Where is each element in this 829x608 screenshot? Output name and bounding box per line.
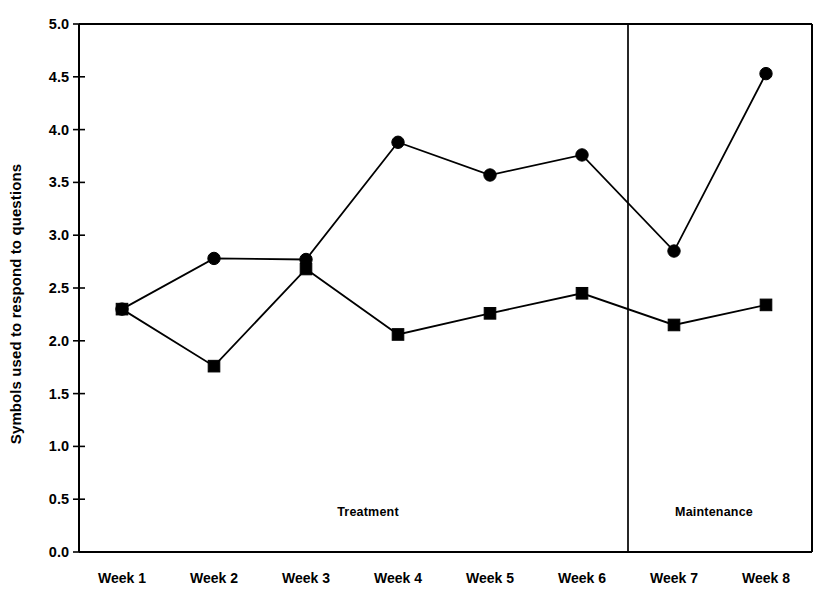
chart-figure: Symbols used to respond to questions 0.0…: [0, 0, 829, 608]
y-axis-tick-label: 3.0: [27, 228, 69, 243]
y-axis-tick-label: 1.5: [27, 386, 69, 401]
x-axis-tick-label: Week 6: [558, 570, 606, 586]
y-axis-label: Symbols used to respond to questions: [0, 0, 30, 608]
y-axis-tick-label: 4.0: [27, 122, 69, 137]
x-axis-tick-label: Week 5: [466, 570, 514, 586]
x-axis-tick-label: Week 3: [282, 570, 330, 586]
x-axis-tick-label: Week 2: [190, 570, 238, 586]
y-axis-tick-label: 1.0: [27, 439, 69, 454]
x-axis-tick-label: Week 7: [650, 570, 698, 586]
y-axis-tick-label: 2.5: [27, 281, 69, 296]
y-axis-tick-label: 0.5: [27, 492, 69, 507]
x-axis-tick-label: Week 1: [98, 570, 146, 586]
y-axis-tick-label: 0.0: [27, 545, 69, 560]
y-axis-tick-label: 4.5: [27, 70, 69, 85]
phase-label-treatment: Treatment: [337, 505, 399, 519]
x-axis-tick-label: Week 8: [742, 570, 790, 586]
x-axis-tick-label: Week 4: [374, 570, 422, 586]
y-axis-tick-label: 3.5: [27, 175, 69, 190]
y-axis-tick-label: 2.0: [27, 334, 69, 349]
phase-label-maintenance: Maintenance: [675, 505, 753, 519]
y-axis-tick-label: 5.0: [27, 17, 69, 32]
